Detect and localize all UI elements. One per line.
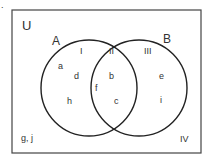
region-i-label: I [80,46,83,56]
element-c: c [114,96,119,106]
element-f: f [95,83,98,93]
set-a-circle [41,40,137,136]
universe-rectangle [12,10,201,153]
set-b-circle [91,40,187,136]
venn-diagram: . U A B I II III IV a d h b f c e i g, j [0,0,212,159]
region-iii-label: III [144,46,152,56]
element-i: i [160,95,162,105]
element-e: e [159,71,164,81]
element-d: d [74,71,79,81]
elements-outside: g, j [21,133,33,143]
set-a-label: A [52,34,60,48]
element-h: h [67,96,72,106]
element-b: b [109,71,114,81]
region-ii-label: II [109,46,114,56]
element-a: a [58,61,63,71]
region-iv-label: IV [180,134,189,144]
universe-label: U [22,18,31,33]
corner-mark: . [1,0,4,10]
set-b-label: B [163,32,171,46]
